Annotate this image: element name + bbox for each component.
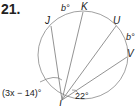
point-k-label: K <box>81 1 88 12</box>
point-v-label: V <box>127 48 134 59</box>
angle-right-label: 22° <box>75 91 89 101</box>
arc-uv-label: b° <box>126 32 135 42</box>
point-u-label: U <box>113 15 120 26</box>
arc-jk-label: b° <box>61 3 70 13</box>
point-vertex-label: L <box>59 99 65 106</box>
point-j-label: J <box>45 15 50 26</box>
angle-left-label: (3x − 14)° <box>2 88 41 98</box>
